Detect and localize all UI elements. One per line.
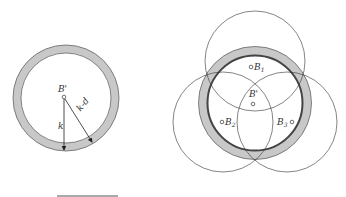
- diagram-canvas: B' k k-d B' B1 B2 B3: [0, 0, 346, 197]
- right-figure: B' B1 B2 B3: [173, 11, 337, 172]
- radius-k-label: k: [58, 121, 63, 131]
- radius-kd-label: k-d: [74, 96, 91, 113]
- beacon-marker-2: [220, 120, 224, 124]
- left-ring: [17, 49, 115, 147]
- center-label: B': [248, 89, 258, 99]
- left-ring-inner-edge: [21, 53, 111, 143]
- beacon-label-3: B3: [276, 117, 288, 128]
- left-figure: B' k k-d: [13, 45, 119, 196]
- beacon-label-1: B1: [253, 62, 264, 73]
- center-marker: [62, 95, 66, 99]
- beacon-marker-3: [290, 120, 294, 124]
- center-label: B': [57, 84, 67, 94]
- center-marker: [251, 102, 255, 106]
- beacon-label-2: B2: [224, 117, 236, 128]
- beacon-marker-1: [249, 65, 253, 69]
